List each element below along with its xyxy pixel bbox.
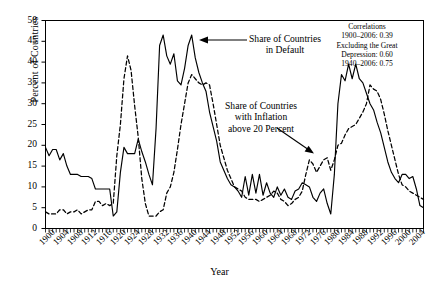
- y-axis-tick-label: 25: [11, 119, 37, 129]
- x-axis-title: Year: [0, 266, 439, 277]
- annotation-line: in Default: [249, 44, 321, 55]
- annotation-line: Correlations: [315, 22, 419, 31]
- y-axis-tick-label: 20: [11, 139, 37, 149]
- annotation-line: Share of Countries: [249, 33, 321, 44]
- series-line-1: [46, 56, 424, 216]
- annotation-line: Share of Countries: [225, 100, 297, 111]
- annotation-line: with Inflation: [225, 111, 297, 122]
- annotation-line: 1900–2006: 0.39: [315, 31, 419, 40]
- annotation-line: above 20 Percent: [225, 123, 297, 134]
- y-axis-tick-label: 40: [11, 56, 37, 66]
- annotation-line: Depression: 0.60: [315, 50, 419, 59]
- y-axis-tick-label: 10: [11, 181, 37, 191]
- default-series-annotation: Share of Countriesin Default: [249, 33, 321, 56]
- y-axis-tick-label: 0: [11, 223, 37, 233]
- default-arrow-head: [199, 37, 208, 44]
- y-axis-ticks: [42, 21, 46, 229]
- y-axis-tick-label: 50: [11, 15, 37, 25]
- y-axis-tick-label: 35: [11, 77, 37, 87]
- y-axis-tick-label: 5: [11, 202, 37, 212]
- y-axis-tick-label: 30: [11, 98, 37, 108]
- y-axis-tick-label: 15: [11, 160, 37, 170]
- inflation-arrow-head: [305, 146, 314, 154]
- annotation-line: Excluding the Great: [315, 41, 419, 50]
- annotation-line: 1940–2006: 0.75: [315, 59, 419, 68]
- correlations-annotation: Correlations1900–2006: 0.39Excluding the…: [315, 22, 419, 68]
- y-axis-tick-label: 45: [11, 35, 37, 45]
- inflation-series-annotation: Share of Countrieswith Inflationabove 20…: [225, 100, 297, 134]
- chart-figure: Percent of Countries Year 05101520253035…: [0, 0, 439, 286]
